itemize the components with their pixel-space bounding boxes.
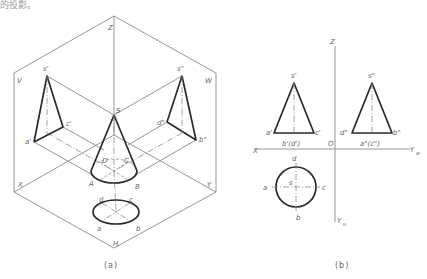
label-b-front-bd: b'(d') <box>282 140 300 148</box>
label-axis-yw: Y <box>410 146 415 154</box>
label-front-c: c' <box>66 120 72 128</box>
label-cone-c: C <box>124 157 129 165</box>
label-axis-yh-sub: H <box>343 222 346 227</box>
label-origin: O <box>328 140 334 148</box>
label-z: Z <box>107 24 113 32</box>
label-front-a: a' <box>25 138 31 146</box>
projector-c-front <box>63 127 104 150</box>
label-x: X <box>17 181 23 189</box>
label-b-side-s: s" <box>368 72 375 80</box>
projector-b <box>137 140 196 174</box>
label-side-s: s" <box>177 65 184 73</box>
label-b-side-ac: a"(c") <box>360 140 380 148</box>
label-y: Y <box>207 181 212 189</box>
label-b-top-b: b <box>296 214 301 222</box>
label-b-top-a: a <box>263 184 267 192</box>
label-b-top-s: s <box>289 179 293 187</box>
label-axis-x: X <box>252 147 258 155</box>
label-axis-yh: Y <box>337 217 342 225</box>
label-cone-s: S <box>116 107 121 115</box>
label-side-b: b" <box>199 136 207 144</box>
label-cone-a: A <box>88 180 94 188</box>
label-b-front-s: s' <box>291 72 297 80</box>
label-b-front-c: c' <box>315 129 321 137</box>
label-h: H <box>113 240 119 248</box>
label-top-c: c <box>129 196 133 204</box>
figure-b: Z X O Y W Y H s' a' c' b'(d') s" d" b" a… <box>252 38 421 270</box>
label-axis-yw-sub: W <box>416 151 421 156</box>
caption-a: (a) <box>104 261 118 270</box>
header-text: 的投影。 <box>0 0 36 10</box>
label-v: V <box>17 77 23 85</box>
label-b-side-d: d" <box>340 129 348 137</box>
front-view-triangle <box>34 76 63 142</box>
label-axis-z: Z <box>329 38 335 46</box>
axis-line-down <box>114 171 116 212</box>
label-top-b: b <box>136 225 141 233</box>
label-front-s: s' <box>43 65 49 73</box>
label-b-top-d: d <box>292 155 297 163</box>
label-b-side-b: b" <box>393 129 401 137</box>
caption-b: (b) <box>335 261 349 270</box>
projection-box-outline <box>14 16 216 248</box>
cone-projection-diagram: 的投影。 <box>0 0 427 279</box>
label-cone-b: B <box>135 183 140 191</box>
label-b-top-c: c <box>322 184 326 192</box>
side-view-triangle <box>167 76 196 140</box>
label-side-d: d" <box>157 119 165 127</box>
label-top-d: d <box>99 196 104 204</box>
label-b-front-a: a' <box>266 129 272 137</box>
label-top-a: a <box>97 225 101 233</box>
figure-a: Z V W X Y H S D C A B s' a' c' s" d" b" … <box>14 16 216 270</box>
projector-a <box>34 142 91 174</box>
label-cone-d: D <box>102 157 108 165</box>
label-w: W <box>205 77 213 85</box>
